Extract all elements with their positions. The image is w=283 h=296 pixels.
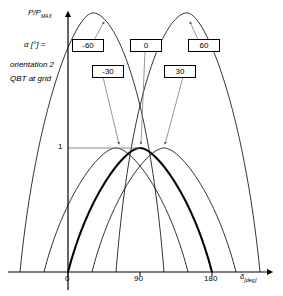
callout-box-minus30[interactable]: -30 bbox=[92, 65, 124, 78]
x-axis-label: δ[deg] bbox=[240, 272, 256, 283]
qbt-label: QBT at grid bbox=[10, 74, 51, 83]
y-axis-label: P/PMAX bbox=[28, 8, 52, 19]
leader-minus30 bbox=[103, 77, 119, 144]
callout-box-30[interactable]: 30 bbox=[164, 65, 196, 78]
x-tick-label-0: 0 bbox=[65, 274, 69, 283]
callout-box-minus60[interactable]: -60 bbox=[72, 39, 104, 52]
callout-box-60[interactable]: 60 bbox=[188, 39, 220, 52]
leader-30 bbox=[165, 77, 183, 144]
alpha-legend-label: α [°] = bbox=[24, 40, 45, 49]
y-tick-label-1: 1 bbox=[58, 142, 62, 151]
x-tick-label-180: 180 bbox=[204, 274, 217, 283]
callout-box-0[interactable]: 0 bbox=[130, 39, 162, 52]
x-tick-label-90: 90 bbox=[134, 274, 143, 283]
chart-figure: P/PMAX α [°] = orientation 2 QBT at grid… bbox=[0, 0, 283, 296]
orientation-label: orientation 2 bbox=[10, 60, 54, 69]
